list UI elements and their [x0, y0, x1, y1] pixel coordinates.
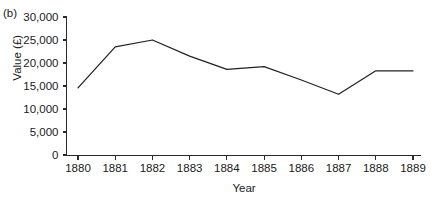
x-tick-label: 1880 [65, 162, 91, 174]
y-tick-label: 0 [52, 149, 58, 161]
x-tick-label: 1885 [251, 162, 277, 174]
y-tick-label: 30,000 [23, 11, 58, 23]
value-series-line [78, 40, 413, 94]
x-tick-label: 1884 [214, 162, 240, 174]
x-tick-label: 1881 [102, 162, 128, 174]
y-tick-label: 15,000 [23, 80, 58, 92]
x-tick-label: 1888 [363, 162, 389, 174]
line-chart-plot: 05,00010,00015,00020,00025,00030,000 188… [0, 0, 434, 205]
x-axis-ticks: 1880188118821883188418851886188718881889 [65, 155, 426, 174]
x-tick-label: 1887 [326, 162, 352, 174]
y-axis-ticks: 05,00010,00015,00020,00025,00030,000 [23, 11, 66, 161]
x-tick-label: 1886 [289, 162, 315, 174]
y-tick-label: 10,000 [23, 103, 58, 115]
y-tick-label: 20,000 [23, 57, 58, 69]
y-tick-label: 25,000 [23, 34, 58, 46]
figure-panel: (b) Value (£) Year 05,00010,00015,00020,… [0, 0, 434, 205]
x-tick-label: 1882 [140, 162, 166, 174]
x-tick-label: 1883 [177, 162, 203, 174]
y-tick-label: 5,000 [30, 126, 59, 138]
x-tick-label: 1889 [400, 162, 426, 174]
